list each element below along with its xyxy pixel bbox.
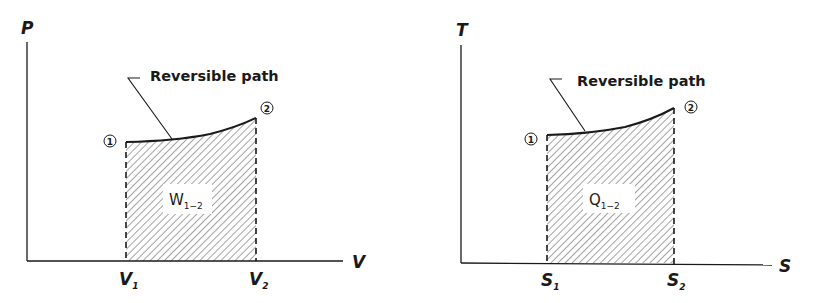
pv-diagram: 1 2 P V Reversible path V1 V2 W1−2 [21,18,367,291]
svg-text:2: 2 [264,104,270,114]
state-1-marker: 1 [525,133,537,145]
svg-text:2: 2 [688,103,694,113]
state-2-marker: 2 [685,101,697,113]
svg-text:1: 1 [107,137,113,147]
s1-label: S1 [541,270,560,292]
p-axis-label: P [21,18,34,38]
thermo-diagrams: 1 2 P V Reversible path V1 V2 W1−2 1 2 T [0,0,817,303]
v-axis-label: V [352,252,367,272]
s-axis [461,263,772,265]
svg-text:1: 1 [528,135,534,145]
ts-diagram: 1 2 T S Reversible path S1 S2 Q1−2 [456,20,791,292]
reversible-path-label: Reversible path [577,73,706,89]
reversible-path-label: Reversible path [150,68,279,84]
state-1-marker: 1 [104,135,116,147]
v2-label: V2 [249,269,268,291]
state-2-marker: 2 [261,102,273,114]
v1-label: V1 [119,269,138,291]
path-leader-line [128,78,172,139]
t-axis-label: T [456,20,469,40]
s2-label: S2 [667,270,686,292]
s-axis-label: S [779,256,791,276]
